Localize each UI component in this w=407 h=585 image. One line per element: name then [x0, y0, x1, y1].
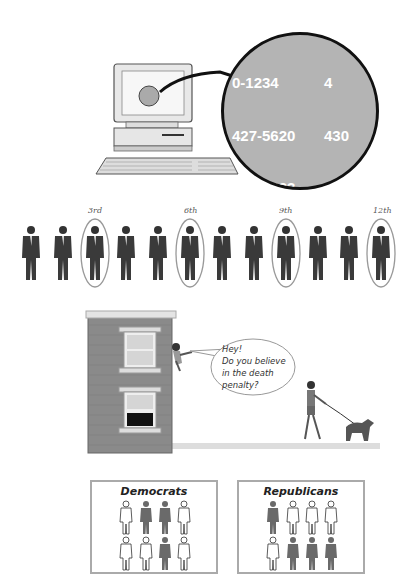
people-row: 3rd 6th 9th 12th — [0, 200, 407, 290]
magnifier-circle: 0-1234 427-5620 931-9823 553-1113 434-61… — [221, 32, 379, 190]
phone-column-2: 4 430 265- 987- 611- 609- 98 9 — [324, 39, 354, 190]
phone-column-1: 0-1234 427-5620 931-9823 553-1113 434-61… — [232, 39, 295, 190]
building-scene: Hey! Do you believe in the death penalty… — [0, 305, 407, 455]
republicans-panel: Republicans — [237, 480, 365, 574]
democrats-title: Democrats — [92, 485, 216, 498]
building-illustration — [0, 305, 407, 455]
people-figures — [0, 200, 407, 290]
republicans-figures — [239, 498, 363, 578]
speech-bubble-text: Hey! Do you believe in the death penalty… — [222, 343, 286, 391]
republicans-title: Republicans — [239, 485, 363, 498]
democrats-figures — [92, 498, 216, 578]
democrats-panel: Democrats — [90, 480, 218, 574]
